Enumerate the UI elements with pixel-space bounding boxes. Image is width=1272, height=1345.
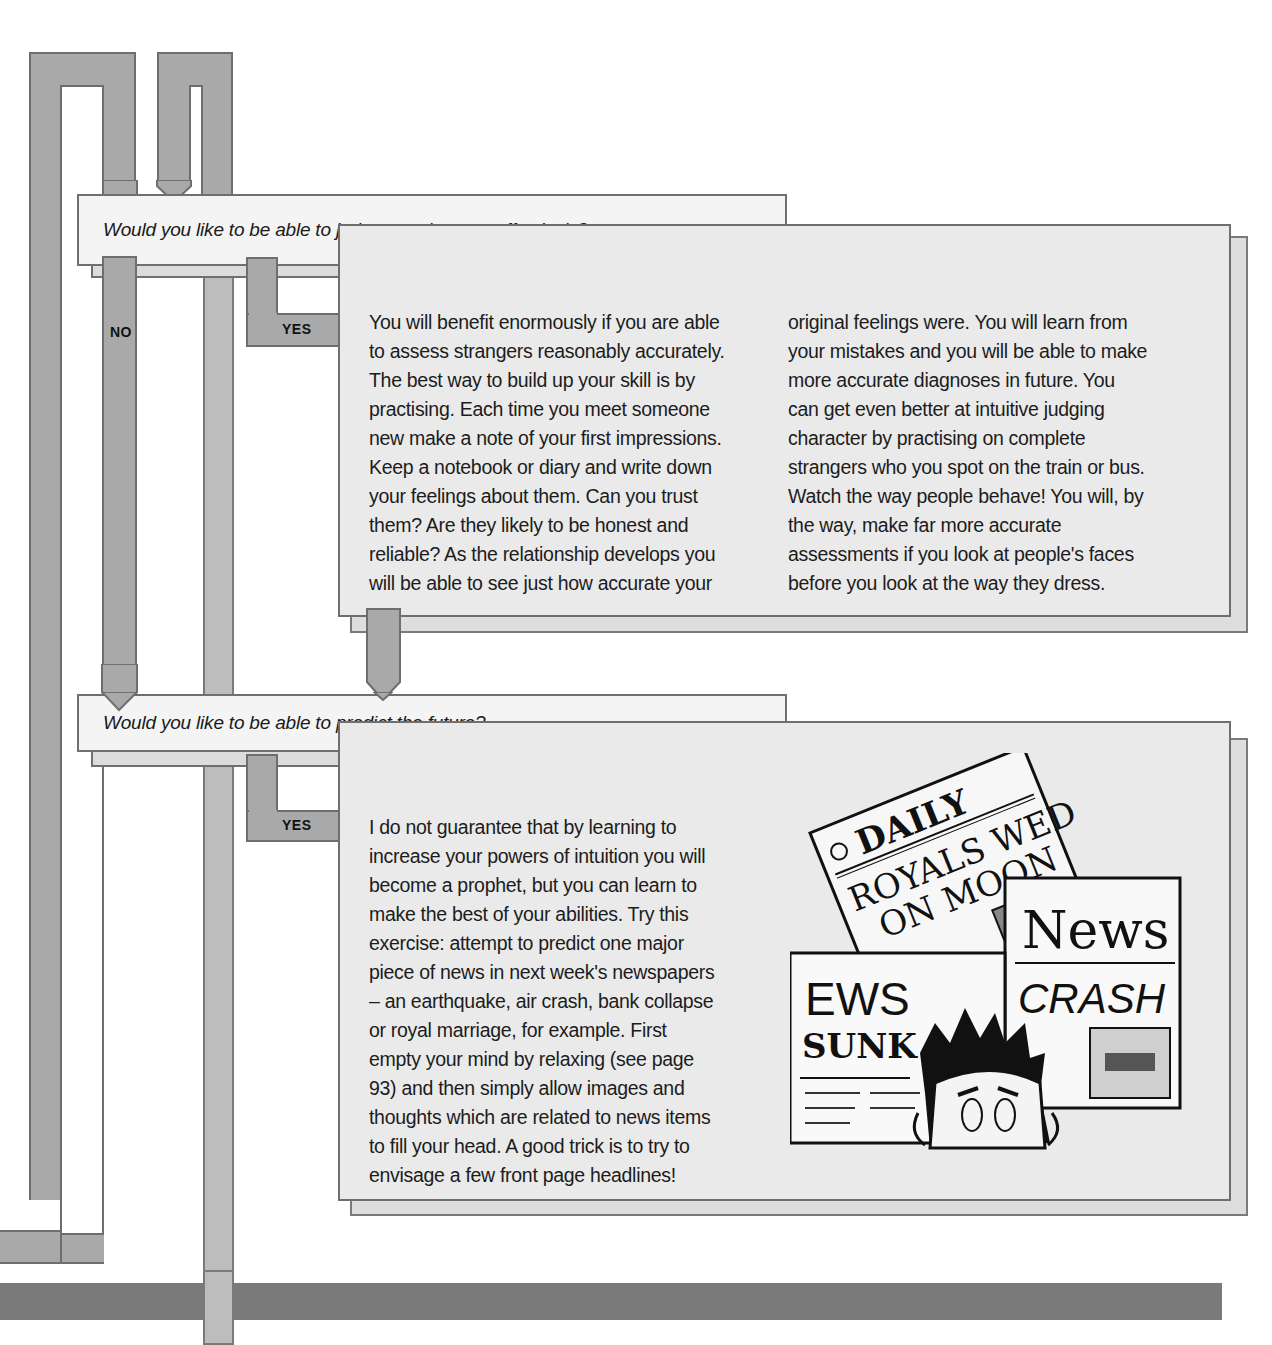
text-line: exercise: attempt to predict one major	[369, 929, 779, 958]
text-line: 93) and then simply allow images and	[369, 1074, 779, 1103]
bottom-decorative-bar	[0, 1283, 1222, 1320]
text-line: piece of news in next week's newspapers	[369, 958, 779, 987]
flow-pipe-no: NO	[102, 256, 137, 666]
text-line: – an earthquake, air crash, bank collaps…	[369, 987, 779, 1016]
arrow-down-icon	[366, 608, 402, 702]
text-line: strangers who you spot on the train or b…	[788, 453, 1208, 482]
text-line: before you look at the way they dress.	[788, 569, 1208, 598]
text-line: Watch the way people behave! You will, b…	[788, 482, 1208, 511]
text-line: reliable? As the relationship develops y…	[369, 540, 779, 569]
text-line: will be able to see just how accurate yo…	[369, 569, 779, 598]
text-line: The best way to build up your skill is b…	[369, 366, 779, 395]
answer-1-column-1: You will benefit enormously if you are a…	[369, 308, 779, 598]
svg-text:EWS: EWS	[805, 973, 910, 1025]
text-line: make the best of your abilities. Try thi…	[369, 900, 779, 929]
flow-pipe-left-hook-mask	[29, 1232, 60, 1234]
text-line: more accurate diagnoses in future. You	[788, 366, 1208, 395]
text-line: Keep a notebook or diary and write down	[369, 453, 779, 482]
text-line: or royal marriage, for example. First	[369, 1016, 779, 1045]
text-line: practising. Each time you meet someone	[369, 395, 779, 424]
text-line: the way, make far more accurate	[788, 511, 1208, 540]
text-line: to fill your head. A good trick is to tr…	[369, 1132, 779, 1161]
text-line: them? Are they likely to be honest and	[369, 511, 779, 540]
answer-2-text: I do not guarantee that by learning to i…	[369, 813, 779, 1190]
text-line: assessments if you look at people's face…	[788, 540, 1208, 569]
text-line: envisage a few front page headlines!	[369, 1161, 779, 1190]
text-line: increase your powers of intuition you wi…	[369, 842, 779, 871]
text-line: empty your mind by relaxing (see page	[369, 1045, 779, 1074]
answer-1-column-2: original feelings were. You will learn f…	[788, 308, 1208, 598]
text-line: your mistakes and you will be able to ma…	[788, 337, 1208, 366]
svg-text:News: News	[1022, 900, 1169, 960]
flow-pipe-left-hook-gap	[0, 1200, 62, 1232]
no-label: NO	[110, 324, 132, 340]
text-line: to assess strangers reasonably accuratel…	[369, 337, 779, 366]
yes-label[interactable]: YES	[282, 817, 312, 833]
text-line: I do not guarantee that by learning to	[369, 813, 779, 842]
flow-pipe-main-vertical	[203, 255, 234, 1345]
svg-text:CRASH: CRASH	[1018, 975, 1166, 1022]
answer-1-box: You will benefit enormously if you are a…	[338, 224, 1231, 617]
text-line: your feelings about them. Can you trust	[369, 482, 779, 511]
text-line: become a prophet, but you can learn to	[369, 871, 779, 900]
text-line: original feelings were. You will learn f…	[788, 308, 1208, 337]
arrow-tip	[366, 692, 402, 702]
text-line: thoughts which are related to news items	[369, 1103, 779, 1132]
newspapers-illustration: DAILY ROYALS WED ON MOON News CRASH EWS …	[790, 753, 1190, 1173]
yes-label[interactable]: YES	[282, 321, 312, 337]
text-line: can get even better at intuitive judging	[788, 395, 1208, 424]
arrow-tip	[100, 692, 140, 712]
svg-text:SUNK: SUNK	[802, 1026, 918, 1066]
text-line: You will benefit enormously if you are a…	[369, 308, 779, 337]
flow-pipe-left-hook	[0, 1230, 62, 1264]
answer-2-box: I do not guarantee that by learning to i…	[338, 721, 1231, 1201]
text-line: new make a note of your first impression…	[369, 424, 779, 453]
flow-pipe-main-vertical-lower	[203, 1270, 234, 1340]
text-line: character by practising on complete	[788, 424, 1208, 453]
